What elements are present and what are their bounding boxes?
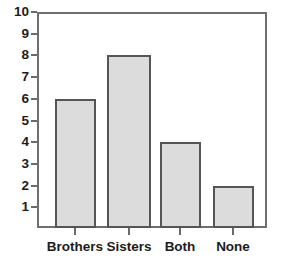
bar (55, 99, 96, 228)
bar (107, 55, 151, 228)
y-axis-tick-label: 1 (7, 200, 29, 214)
bar (213, 186, 254, 228)
y-axis-tick-mark (31, 163, 37, 165)
y-axis-tick-mark (31, 206, 37, 208)
x-axis-tick-mark (179, 228, 181, 235)
y-axis-tick-label: 8 (7, 48, 29, 62)
y-axis-tick-label: 3 (7, 157, 29, 171)
bar-chart: 12345678910 BrothersSistersBothNone (0, 0, 283, 278)
bar (160, 142, 201, 228)
y-axis-tick-mark (31, 11, 37, 13)
y-axis-tick-mark (31, 33, 37, 35)
y-axis-tick-label: 9 (7, 27, 29, 41)
y-axis-tick-label: 4 (7, 135, 29, 149)
y-axis-tick-label: 7 (7, 70, 29, 84)
x-axis-tick-mark (232, 228, 234, 235)
y-axis-tick-mark (31, 141, 37, 143)
y-axis-tick-mark (31, 98, 37, 100)
y-axis-tick-mark (31, 54, 37, 56)
x-axis-tick-mark (74, 228, 76, 235)
y-axis-tick-mark (31, 120, 37, 122)
y-axis-tick-label: 6 (7, 92, 29, 106)
x-axis-tick-label: None (173, 240, 283, 254)
y-axis-tick-mark (31, 76, 37, 78)
x-axis-tick-mark (128, 228, 130, 235)
y-axis-tick-label: 2 (7, 179, 29, 193)
y-axis-tick-label: 5 (7, 114, 29, 128)
y-axis-tick-label: 10 (7, 5, 29, 19)
y-axis-tick-mark (31, 185, 37, 187)
